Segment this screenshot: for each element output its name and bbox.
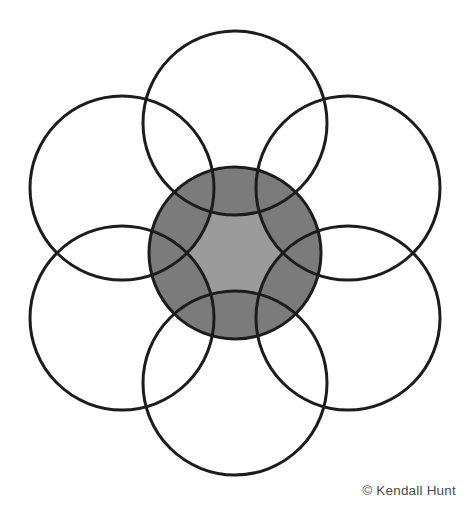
copyright-credit: © Kendall Hunt (362, 483, 456, 498)
figure-container: © Kendall Hunt (0, 0, 468, 516)
circles-diagram (0, 0, 468, 516)
